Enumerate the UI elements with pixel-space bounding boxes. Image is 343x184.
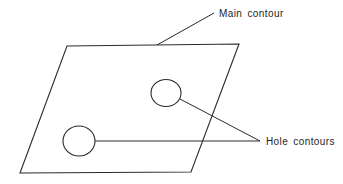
hole-contour-left — [63, 126, 95, 156]
contour-diagram: Main contour Hole contours — [0, 0, 343, 184]
hole-contour-right — [151, 80, 181, 107]
hole-right-leader-line — [180, 99, 260, 141]
main-contour-shape — [20, 44, 239, 173]
hole-contours-label: Hole contours — [266, 136, 335, 147]
main-contour-leader-line — [157, 13, 214, 45]
main-contour-label: Main contour — [219, 8, 284, 19]
